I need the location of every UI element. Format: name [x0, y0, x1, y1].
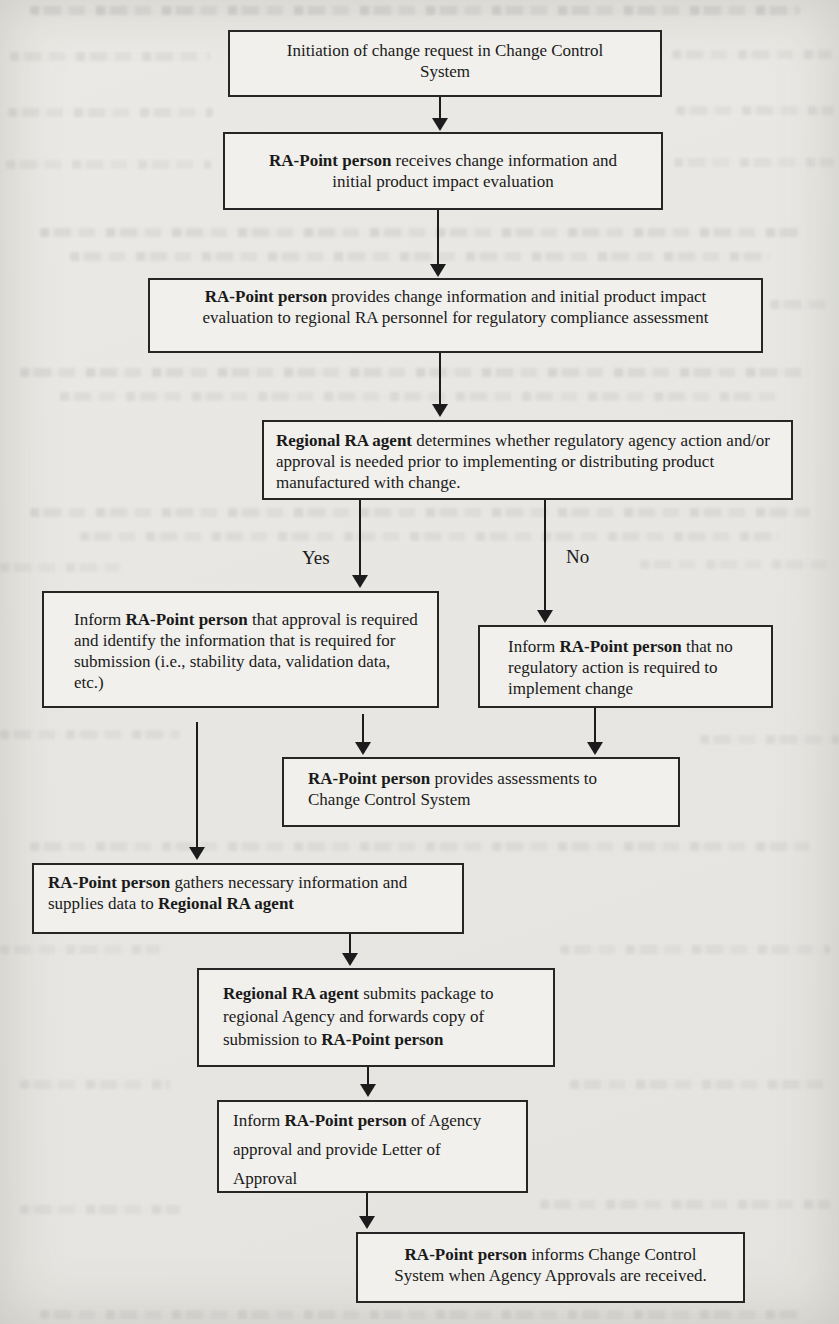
arrowhead-down-icon — [537, 610, 553, 623]
flow-node-text: RA-Point person gathers necessary inform… — [48, 872, 414, 914]
flow-node-inform-no-action-required: Inform RA-Point person that no regulator… — [478, 625, 773, 708]
bleedthrough-ghost — [20, 1080, 170, 1089]
flow-node-text: Initiation of change request in Change C… — [264, 40, 626, 82]
arrowhead-down-icon — [432, 404, 448, 417]
bleedthrough-ghost — [672, 50, 832, 59]
arrowhead-down-icon — [352, 575, 368, 588]
bleedthrough-ghost — [570, 1080, 830, 1089]
flow-node-inform-approval-required: Inform RA-Point person that approval is … — [42, 591, 439, 708]
flow-node-text: RA-Point person provides assessments to … — [308, 768, 650, 810]
scanned-page: Initiation of change request in Change C… — [0, 0, 839, 1324]
flow-node-submits-package: Regional RA agent submits package to reg… — [197, 968, 555, 1067]
flow-node-provides-assessments: RA-Point person provides assessments to … — [282, 757, 680, 827]
arrowhead-down-icon — [189, 847, 205, 860]
bleedthrough-ghost — [70, 252, 770, 261]
bleedthrough-ghost — [674, 158, 834, 167]
flow-node-text: RA-Point person informs Change Control S… — [382, 1244, 719, 1286]
bleedthrough-ghost — [770, 300, 834, 309]
bleedthrough-ghost — [80, 532, 780, 541]
flow-node-receives-change-info: RA-Point person receives change informat… — [223, 132, 663, 210]
bleedthrough-ghost — [640, 560, 835, 569]
bleedthrough-ghost — [30, 508, 810, 517]
flow-node-text: Regional RA agent determines whether reg… — [276, 430, 779, 493]
flow-node-initiation: Initiation of change request in Change C… — [228, 30, 662, 97]
bleedthrough-ghost — [560, 945, 830, 954]
bleedthrough-ghost — [540, 1200, 830, 1209]
flow-node-provides-change-info: RA-Point person provides change informat… — [148, 278, 763, 353]
arrowhead-down-icon — [342, 953, 358, 966]
bleedthrough-ghost — [40, 228, 800, 237]
arrowhead-down-icon — [359, 1216, 375, 1229]
bleedthrough-ghost — [0, 730, 180, 739]
bleedthrough-ghost — [60, 392, 780, 401]
connector-gathers-to-submits — [349, 934, 351, 953]
bleedthrough-ghost — [700, 735, 839, 744]
bleedthrough-ghost — [20, 368, 810, 377]
flow-node-text: Inform RA-Point person that approval is … — [74, 609, 423, 693]
bleedthrough-ghost — [10, 52, 210, 61]
connector-yesbox-to-assessments — [362, 714, 364, 742]
connector-nobox-to-assessments — [594, 708, 596, 742]
bleedthrough-ghost — [8, 108, 213, 117]
connector-submits-to-letter — [367, 1067, 369, 1084]
bleedthrough-ghost — [676, 106, 834, 115]
arrowhead-down-icon — [432, 118, 448, 131]
bleedthrough-ghost — [0, 563, 120, 572]
connector-letter-to-final — [366, 1193, 368, 1216]
arrowhead-down-icon — [355, 742, 371, 755]
flow-node-text: Inform RA-Point person that no regulator… — [508, 636, 761, 699]
connector-provides-to-determines — [439, 353, 441, 404]
connector-yesbox-to-gathers — [196, 722, 198, 847]
bleedthrough-ghost — [30, 6, 800, 15]
flow-node-text: Regional RA agent submits package to reg… — [223, 982, 535, 1051]
connector-receives-to-provides — [437, 210, 439, 264]
flow-node-text: RA-Point person receives change informat… — [251, 150, 635, 192]
bleedthrough-ghost — [20, 1205, 180, 1214]
flow-node-informs-change-control-system: RA-Point person informs Change Control S… — [356, 1232, 745, 1303]
branch-label-no: No — [566, 546, 589, 568]
flow-node-inform-agency-approval: Inform RA-Point person of Agency approva… — [217, 1100, 528, 1193]
flow-node-gathers-information: RA-Point person gathers necessary inform… — [32, 863, 464, 934]
flow-node-text: Inform RA-Point person of Agency approva… — [233, 1106, 506, 1193]
connector-initiation-to-receives — [439, 97, 441, 118]
bleedthrough-ghost — [30, 842, 810, 851]
bleedthrough-ghost — [6, 160, 211, 169]
arrowhead-down-icon — [430, 264, 446, 277]
bleedthrough-ghost — [40, 1310, 800, 1319]
flow-node-determines-agency-action: Regional RA agent determines whether reg… — [262, 420, 793, 500]
bleedthrough-ghost — [0, 945, 160, 954]
flow-node-text: RA-Point person provides change informat… — [172, 286, 739, 328]
connector-yes-branch — [359, 500, 361, 575]
branch-label-yes: Yes — [302, 547, 330, 569]
connector-no-branch — [544, 500, 546, 610]
arrowhead-down-icon — [587, 742, 603, 755]
arrowhead-down-icon — [360, 1084, 376, 1097]
